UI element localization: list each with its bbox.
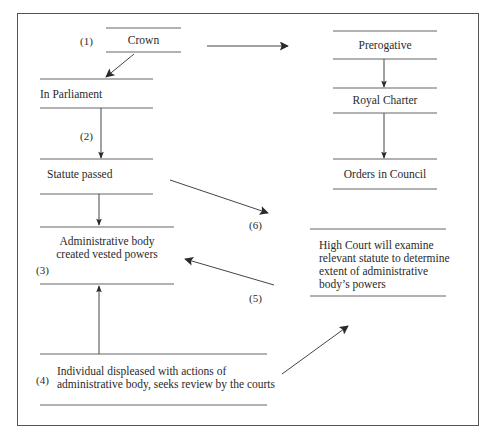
edge-label-6: (6) xyxy=(249,219,262,231)
node-high-court: High Court will examine relevant statute… xyxy=(319,239,450,291)
edge-label-2: (2) xyxy=(80,130,93,142)
crown-number: (1) xyxy=(80,35,93,47)
high-court-line2: relevant statute to determine xyxy=(319,252,450,265)
arrow-individual-to-high-court xyxy=(282,326,348,374)
arrow-high-court-to-admin xyxy=(185,259,274,285)
individual-line1: Individual displeased with actions of xyxy=(57,365,275,378)
high-court-line1: High Court will examine xyxy=(319,239,450,252)
admin-body-number: (3) xyxy=(36,264,49,276)
individual-number: (4) xyxy=(36,374,49,386)
high-court-line4: body’s powers xyxy=(319,278,450,291)
node-individual: Individual displeased with actions of ad… xyxy=(57,365,275,391)
arrow-statute-to-high-court xyxy=(170,180,268,213)
high-court-line3: extent of administrative xyxy=(319,265,450,278)
node-prerogative: Prerogative xyxy=(333,39,437,52)
node-crown: Crown xyxy=(106,34,181,47)
individual-line2: administrative body, seeks review by the… xyxy=(57,378,275,391)
node-royal-charter: Royal Charter xyxy=(333,94,437,107)
admin-body-line1: Administrative body xyxy=(40,235,174,248)
admin-body-line2: created vested powers xyxy=(40,248,174,261)
node-orders-in-council: Orders in Council xyxy=(333,168,437,181)
edge-label-5: (5) xyxy=(249,292,262,304)
node-statute-passed: Statute passed xyxy=(47,168,112,181)
arrow-crown-to-parliament xyxy=(106,54,134,77)
node-admin-body: Administrative body created vested power… xyxy=(40,235,174,261)
node-in-parliament: In Parliament xyxy=(40,88,102,101)
